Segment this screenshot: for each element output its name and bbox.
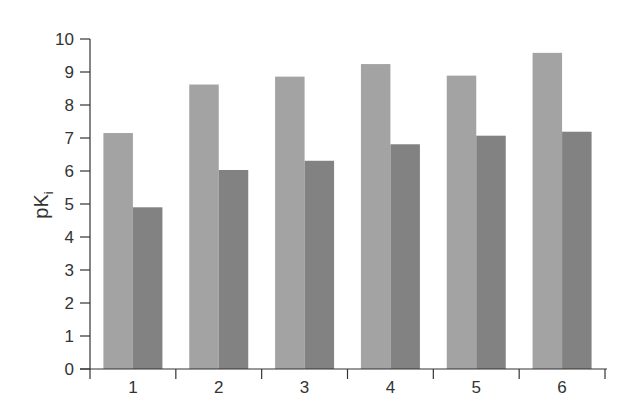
y-tick-label: 0 — [65, 360, 74, 379]
bar-series-1-cat-1 — [103, 133, 132, 369]
y-tick-label: 7 — [65, 129, 74, 148]
bar-series-1-cat-5 — [447, 76, 477, 369]
bar-chart: 012345678910 123456 pKi — [0, 0, 636, 412]
y-tick-label: 9 — [65, 63, 74, 82]
bar-series-2-cat-4 — [390, 144, 420, 369]
bar-series-2-cat-1 — [133, 207, 163, 369]
x-axis: 123456 — [80, 369, 607, 397]
y-tick-label: 5 — [65, 195, 74, 214]
y-tick-label: 10 — [55, 30, 74, 49]
y-axis: 012345678910 — [55, 30, 90, 379]
y-tick-label: 8 — [65, 96, 74, 115]
y-tick-label: 3 — [65, 261, 74, 280]
x-tick-label: 3 — [300, 378, 309, 397]
x-tick-label: 5 — [472, 378, 481, 397]
bar-series-1-cat-6 — [533, 53, 563, 369]
x-tick-label: 1 — [128, 378, 137, 397]
bars-group — [103, 53, 591, 369]
bar-series-2-cat-6 — [562, 132, 592, 369]
bar-series-2-cat-5 — [476, 136, 506, 369]
y-tick-label: 2 — [65, 294, 74, 313]
y-tick-label: 4 — [65, 228, 74, 247]
bar-series-1-cat-4 — [361, 64, 391, 369]
x-tick-label: 2 — [214, 378, 223, 397]
bar-series-1-cat-2 — [189, 85, 219, 369]
y-axis-title: pKi — [30, 191, 56, 218]
x-tick-label: 6 — [557, 378, 566, 397]
bar-series-2-cat-2 — [219, 170, 249, 369]
x-tick-label: 4 — [386, 378, 395, 397]
y-tick-label: 6 — [65, 162, 74, 181]
y-tick-label: 1 — [65, 327, 74, 346]
bar-series-2-cat-3 — [305, 161, 335, 369]
bar-series-1-cat-3 — [275, 77, 305, 369]
